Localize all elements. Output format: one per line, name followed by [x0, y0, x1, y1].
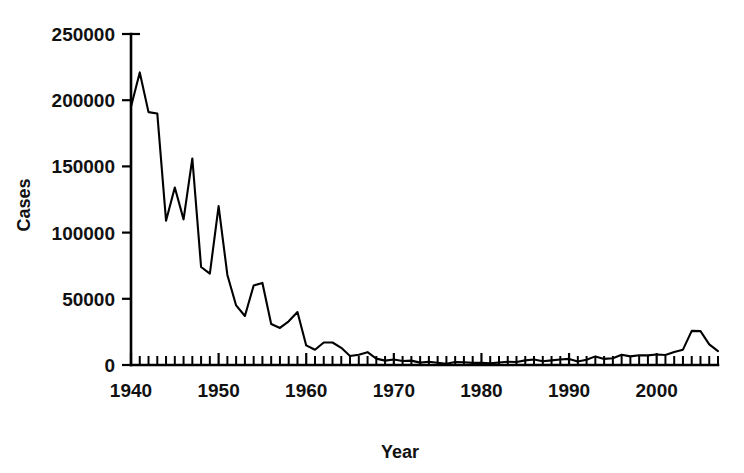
y-tick-label: 200000: [52, 90, 115, 111]
x-tick-label: 1980: [460, 380, 502, 401]
x-tick-label: 1940: [110, 380, 152, 401]
y-axis-title: Cases: [14, 178, 34, 231]
x-tick-label: 1970: [373, 380, 415, 401]
chart-figure: 050000100000150000200000250000 194019501…: [0, 0, 744, 473]
y-tick-label: 0: [104, 355, 115, 376]
y-tick-label: 250000: [52, 24, 115, 45]
x-tick-label: 1990: [548, 380, 590, 401]
x-axis-tick-labels: 1940195019601970198019902000: [110, 380, 678, 401]
x-tick-label: 1950: [197, 380, 239, 401]
y-tick-label: 150000: [52, 156, 115, 177]
x-tick-label: 1960: [285, 380, 327, 401]
data-series-line: [131, 72, 718, 363]
axis-lines: [131, 34, 718, 365]
y-tick-label: 50000: [62, 289, 115, 310]
x-tick-label: 2000: [636, 380, 678, 401]
x-axis-title: Year: [381, 442, 419, 462]
y-axis-tick-labels: 050000100000150000200000250000: [52, 24, 115, 376]
y-tick-label: 100000: [52, 223, 115, 244]
chart-canvas: 050000100000150000200000250000 194019501…: [0, 0, 744, 473]
